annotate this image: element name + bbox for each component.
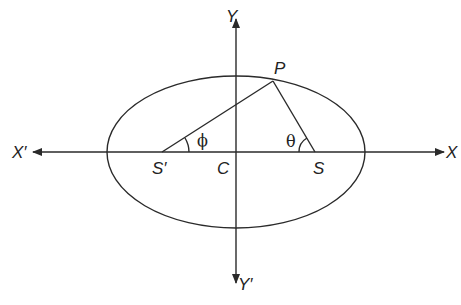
- angle-arc-theta: [299, 138, 307, 152]
- label-x-prime: X′: [11, 143, 27, 162]
- label-y-prime: Y′: [238, 275, 253, 294]
- focal-radius-left: [162, 81, 273, 152]
- label-y: Y: [226, 7, 239, 26]
- angle-arc-phi: [185, 138, 189, 152]
- ellipse-diagram: Y Y′ X X′ P S′ C S ϕ θ: [0, 0, 461, 305]
- label-c: C: [217, 159, 230, 178]
- label-s: S: [313, 159, 325, 178]
- label-s-prime: S′: [152, 159, 167, 178]
- label-p: P: [274, 59, 286, 78]
- label-phi: ϕ: [197, 131, 208, 150]
- label-theta: θ: [286, 132, 296, 151]
- label-x: X: [445, 143, 458, 162]
